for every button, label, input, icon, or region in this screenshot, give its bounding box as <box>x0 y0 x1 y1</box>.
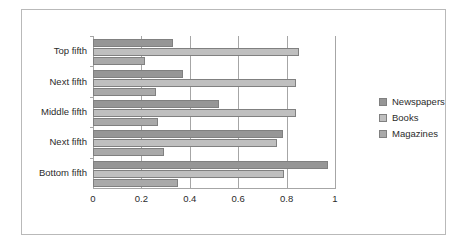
category-label: Bottom fifth <box>0 168 93 178</box>
x-axis-tick-label: 0.4 <box>175 194 205 204</box>
category-label: Middle fifth <box>0 107 93 117</box>
legend-swatch-icon <box>379 98 387 106</box>
bar-books <box>93 170 284 178</box>
bar-group: Next fifth <box>93 127 335 157</box>
y-axis-tick-mark <box>90 66 93 67</box>
x-axis-tick-label: 1 <box>320 194 350 204</box>
plot-area: Top fifthNext fifthMiddle fifthNext fift… <box>93 36 335 188</box>
y-axis-tick-mark <box>90 158 93 159</box>
category-label: Top fifth <box>0 46 93 56</box>
bar-books <box>93 139 277 147</box>
bar-group: Next fifth <box>93 66 335 96</box>
category-label: Next fifth <box>0 77 93 87</box>
x-axis-tick-label: 0.6 <box>223 194 253 204</box>
bar-group: Middle fifth <box>93 97 335 127</box>
legend-label: Books <box>392 113 418 123</box>
bar-magazines <box>93 118 158 126</box>
bar-group: Bottom fifth <box>93 158 335 188</box>
legend-item-magazines[interactable]: Magazines <box>379 126 445 142</box>
x-axis-tick-label: 0.2 <box>126 194 156 204</box>
bar-books <box>93 109 296 117</box>
bar-magazines <box>93 179 178 187</box>
legend-swatch-icon <box>379 130 387 138</box>
chart-frame: Top fifthNext fifthMiddle fifthNext fift… <box>21 9 446 235</box>
y-axis-tick-mark <box>90 97 93 98</box>
y-axis-tick-mark <box>90 36 93 37</box>
legend-swatch-icon <box>379 114 387 122</box>
legend-label: Magazines <box>392 129 438 139</box>
bar-books <box>93 79 296 87</box>
bar-group: Top fifth <box>93 36 335 66</box>
bar-magazines <box>93 88 156 96</box>
bar-newspapers <box>93 130 283 138</box>
bar-magazines <box>93 57 145 65</box>
x-axis-tick-label: 0 <box>78 194 108 204</box>
legend-label: Newspapers <box>392 97 445 107</box>
y-axis-tick-mark <box>90 127 93 128</box>
legend-item-newspapers[interactable]: Newspapers <box>379 94 445 110</box>
x-axis-tick-label: 0.8 <box>272 194 302 204</box>
x-axis-line <box>93 188 336 189</box>
category-label: Next fifth <box>0 137 93 147</box>
chart-legend: NewspapersBooksMagazines <box>379 94 445 142</box>
bar-newspapers <box>93 70 183 78</box>
gridline-x <box>335 36 336 188</box>
legend-item-books[interactable]: Books <box>379 110 445 126</box>
bar-magazines <box>93 148 164 156</box>
bar-newspapers <box>93 161 328 169</box>
bar-newspapers <box>93 100 219 108</box>
bar-newspapers <box>93 39 173 47</box>
bar-books <box>93 48 299 56</box>
